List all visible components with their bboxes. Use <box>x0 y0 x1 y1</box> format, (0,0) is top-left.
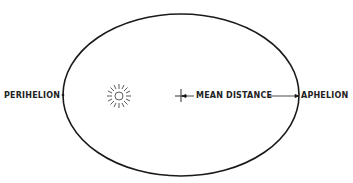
sun-icon <box>107 84 131 108</box>
mean-distance-label: MEAN DISTANCE <box>196 91 272 101</box>
mean-distance-arrow-right <box>268 95 299 98</box>
mean-distance-arrow-left <box>182 95 194 98</box>
perihelion-label: PERIHELION <box>4 91 60 101</box>
perihelion-point <box>62 94 65 97</box>
aphelion-label: APHELION <box>301 91 348 101</box>
